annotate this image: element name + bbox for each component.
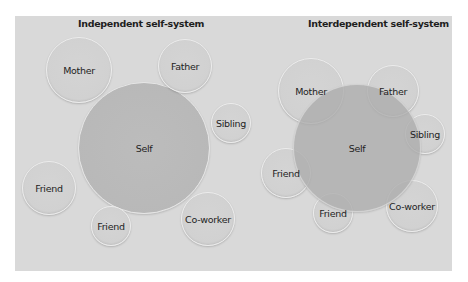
father-label-overlay: Father <box>367 65 419 117</box>
friend-circle: Friend <box>91 206 131 246</box>
co-worker-label-overlay: Co-worker <box>386 180 438 232</box>
node-label: Father <box>379 86 407 97</box>
self-circle: Self <box>78 82 210 214</box>
node-label: Friend <box>272 168 299 179</box>
mother-circle-label: Mother <box>63 65 95 76</box>
friend-circle: Friend <box>22 161 76 215</box>
node-label: Mother <box>295 86 327 97</box>
sibling-circle-label: Sibling <box>216 118 246 129</box>
friend-label-overlay: Friend <box>261 148 311 198</box>
sibling-circle: Sibling <box>211 103 251 143</box>
independent-title: Independent self-system <box>78 18 204 29</box>
friend-circle-label: Friend <box>35 183 62 194</box>
father-circle: Father <box>158 39 212 93</box>
node-label: Friend <box>319 208 346 219</box>
self-circle-label: Self <box>136 143 153 154</box>
co-worker-circle: Co-worker <box>181 192 235 246</box>
sibling-label-overlay: Sibling <box>405 114 445 154</box>
mother-circle: Mother <box>46 37 112 103</box>
interdependent-title: Interdependent self-system <box>308 18 449 29</box>
node-label: Co-worker <box>389 201 435 212</box>
friend-label-overlay: Friend <box>313 193 353 233</box>
mother-label-overlay: Mother <box>278 58 344 124</box>
co-worker-circle-label: Co-worker <box>185 214 231 225</box>
father-circle-label: Father <box>171 61 199 72</box>
friend-circle-label: Friend <box>97 221 124 232</box>
self-circle-label: Self <box>349 143 366 154</box>
node-label: Sibling <box>410 129 440 140</box>
